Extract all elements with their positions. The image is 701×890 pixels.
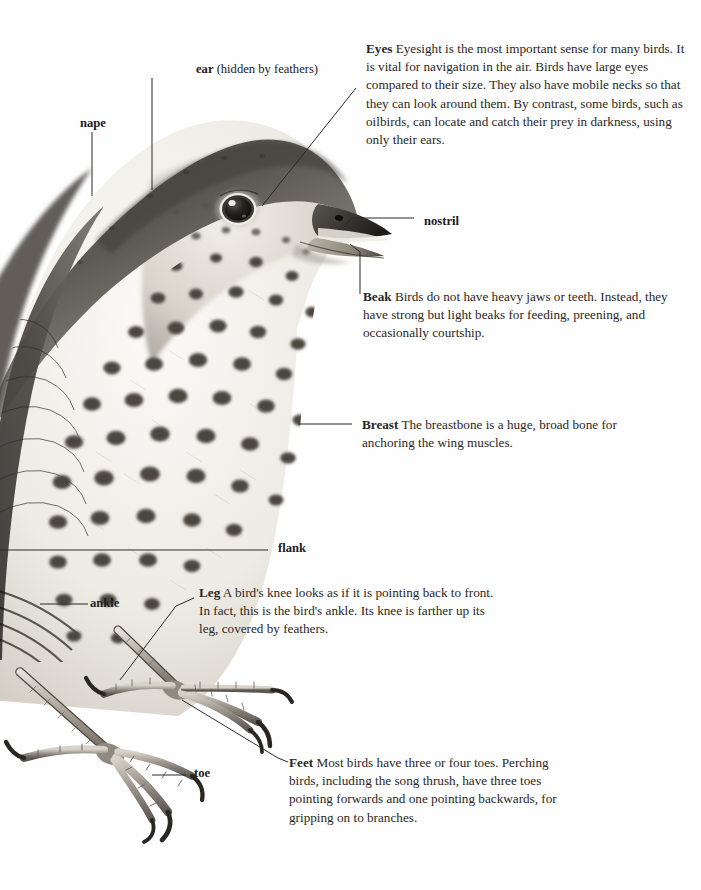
bird-foot-rear: [86, 677, 292, 752]
callout-feet-body: Most birds have three or four toes. Perc…: [289, 755, 557, 825]
callout-breast-term: Breast: [362, 417, 398, 432]
callout-eyes-body: Eyesight is the most important sense for…: [366, 41, 684, 147]
callout-breast-body: The breastbone is a huge, broad bone for…: [362, 417, 617, 450]
callout-feet-term: Feet: [289, 755, 313, 770]
callout-beak: Beak Birds do not have heavy jaws or tee…: [363, 288, 685, 343]
bird-eye: [216, 190, 260, 228]
callout-leg: Leg A bird's knee looks as if it is poin…: [199, 584, 501, 639]
callout-leg-body: A bird's knee looks as if it is pointing…: [199, 585, 493, 636]
bird-foot-front: [6, 739, 203, 842]
label-flank: flank: [278, 541, 306, 556]
illustration-page: nape ear (hidden by feathers) nostril fl…: [0, 0, 701, 890]
bird-body: [0, 120, 392, 842]
callout-leg-term: Leg: [199, 585, 220, 600]
callout-eyes: Eyes Eyesight is the most important sens…: [366, 40, 686, 149]
label-ankle: ankle: [90, 596, 119, 611]
label-ear: ear (hidden by feathers): [196, 62, 318, 77]
callout-beak-term: Beak: [363, 289, 392, 304]
callout-breast: Breast The breastbone is a huge, broad b…: [362, 416, 662, 452]
callout-eyes-term: Eyes: [366, 41, 392, 56]
label-toe: toe: [194, 766, 210, 781]
callout-beak-body: Birds do not have heavy jaws or teeth. I…: [363, 289, 668, 340]
label-nape: nape: [80, 116, 106, 131]
callout-feet: Feet Most birds have three or four toes.…: [289, 754, 579, 827]
label-nostril: nostril: [424, 214, 459, 229]
